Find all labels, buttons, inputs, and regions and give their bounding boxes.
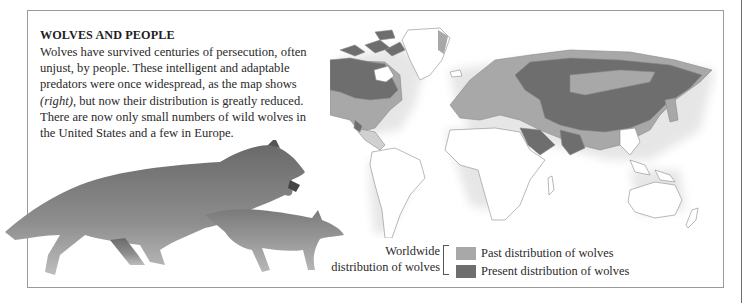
past-range-swatch [456, 247, 476, 260]
greenland-past-range [438, 30, 448, 54]
map-legend: Worldwide distribution of wolves Past di… [300, 243, 680, 283]
body-text-part-1: Wolves have survived centuries of persec… [40, 45, 307, 91]
legend-label-line1: Worldwide [300, 243, 440, 259]
page-edge-divider [741, 0, 742, 303]
north-america [330, 30, 405, 150]
madagascar [548, 176, 554, 195]
body-text-italic: (right) [40, 94, 73, 108]
world-map [330, 20, 718, 238]
new-zealand [686, 208, 698, 228]
legend-item-present: Present distribution of wolves [456, 263, 629, 279]
legend-label-line2: distribution of wolves [300, 259, 440, 275]
legend-item-label: Present distribution of wolves [481, 264, 629, 279]
body-text-part-2: , but now their distribution is greatly … [40, 94, 306, 140]
info-text-block: WOLVES AND PEOPLE Wolves have survived c… [40, 28, 320, 141]
panel-body-text: Wolves have survived centuries of persec… [40, 44, 320, 141]
panel-title: WOLVES AND PEOPLE [40, 28, 320, 43]
present-range-swatch [456, 265, 476, 278]
legend-label: Worldwide distribution of wolves [300, 243, 440, 275]
legend-items: Past distribution of wolves Present dist… [456, 245, 629, 281]
legend-item-label: Past distribution of wolves [481, 246, 614, 261]
legend-item-past: Past distribution of wolves [456, 245, 629, 261]
legend-bracket [443, 245, 449, 275]
